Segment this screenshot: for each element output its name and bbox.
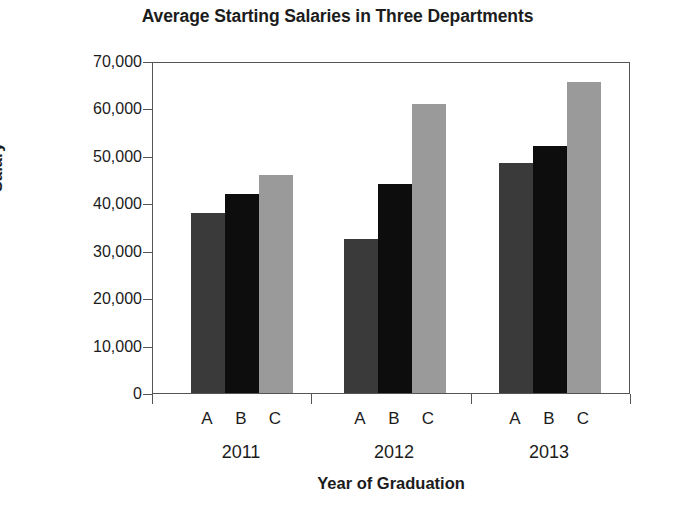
bar-2013-A	[499, 163, 533, 393]
series-label-2011-A: A	[201, 410, 212, 427]
x-axis-tick-mark	[471, 394, 472, 404]
series-tick-labels: ABCABCABC	[152, 410, 630, 434]
y-axis-tick-mark	[143, 394, 152, 395]
chart-title: Average Starting Salaries in Three Depar…	[0, 6, 675, 27]
series-label-2012-C: C	[422, 410, 434, 427]
y-axis-tick-label: 10,000	[93, 339, 142, 355]
series-label-2012-B: B	[388, 410, 399, 427]
x-axis-tick-mark	[311, 394, 312, 404]
x-axis-group-labels: 201120122013	[152, 443, 630, 469]
y-axis-tick-label: 70,000	[93, 54, 142, 70]
y-axis-tick-label: 0	[133, 386, 142, 402]
bar-2012-B	[378, 184, 412, 393]
series-label-2011-B: B	[235, 410, 246, 427]
y-axis-tick-mark	[143, 347, 152, 348]
y-axis-tick-mark	[143, 299, 152, 300]
series-label-2013-C: C	[577, 410, 589, 427]
chart-figure: Average Starting Salaries in Three Depar…	[0, 0, 675, 518]
y-axis-tick-mark	[143, 204, 152, 205]
x-axis-tick-mark	[152, 394, 153, 404]
group-label-2011: 2011	[222, 443, 261, 461]
y-axis-tick-mark	[143, 252, 152, 253]
y-axis-tick-mark	[143, 157, 152, 158]
bar-2013-C	[567, 82, 601, 393]
series-label-2013-B: B	[543, 410, 554, 427]
plot-area	[152, 62, 630, 394]
bars-layer	[153, 63, 629, 393]
bar-2012-A	[344, 239, 378, 393]
x-axis-ticks	[152, 394, 630, 406]
y-axis-tick-mark	[143, 62, 152, 63]
y-axis-tick-label: 50,000	[93, 149, 142, 165]
y-axis-tick-labels: 010,00020,00030,00040,00050,00060,00070,…	[18, 62, 142, 394]
y-axis-tick-mark	[143, 109, 152, 110]
x-axis-title: Year of Graduation	[152, 474, 630, 493]
series-label-2012-A: A	[354, 410, 365, 427]
bar-2011-C	[259, 175, 293, 393]
series-label-2013-A: A	[509, 410, 520, 427]
bar-2011-B	[225, 194, 259, 393]
bar-2011-A	[191, 213, 225, 393]
group-label-2013: 2013	[529, 443, 569, 461]
bar-2013-B	[533, 146, 567, 393]
series-label-2011-C: C	[269, 410, 281, 427]
x-axis-tick-mark	[630, 394, 631, 404]
y-axis-tick-label: 40,000	[93, 196, 142, 212]
group-label-2012: 2012	[374, 443, 414, 461]
y-axis-tick-label: 20,000	[93, 291, 142, 307]
y-axis-title: Salary	[0, 142, 6, 192]
y-axis-tick-label: 60,000	[93, 101, 142, 117]
bar-2012-C	[412, 104, 446, 393]
y-axis-tick-label: 30,000	[93, 244, 142, 260]
